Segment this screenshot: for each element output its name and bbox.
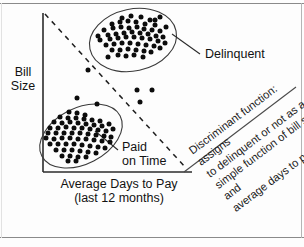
scatter-point	[158, 15, 163, 20]
scatter-point	[68, 154, 73, 159]
paid-on-time-label-line2: on Time	[122, 154, 166, 168]
scatter-point	[60, 121, 65, 126]
scatter-point	[111, 127, 116, 132]
scatter-point	[158, 46, 163, 51]
scatter-point	[136, 42, 141, 47]
scatter-point	[154, 34, 159, 39]
scatter-point	[134, 20, 139, 25]
y-axis-label-line1: Bill	[15, 65, 32, 79]
scatter-point	[58, 115, 63, 120]
scatter-point	[94, 133, 99, 138]
scatter-point	[103, 146, 108, 151]
scatter-point	[75, 111, 80, 116]
scatter-point	[141, 55, 146, 60]
scatter-point	[46, 131, 51, 136]
scatter-point	[119, 25, 124, 30]
scatter-point	[90, 118, 95, 123]
scatter-point	[135, 25, 140, 30]
scatter-point	[88, 144, 93, 149]
scatter-point	[67, 110, 72, 115]
scatter-point	[82, 117, 87, 122]
scatter-point	[148, 18, 153, 23]
scatter-point	[156, 39, 161, 44]
scatter-point	[150, 88, 155, 93]
scatter-point	[102, 134, 107, 139]
scatter-point	[135, 88, 140, 93]
scatter-point	[108, 37, 113, 42]
scatter-point	[129, 14, 134, 19]
scatter-point	[107, 122, 112, 127]
scatter-point	[96, 128, 101, 133]
scatter-point	[153, 23, 158, 28]
scatter-point	[60, 136, 65, 141]
scatter-point	[80, 143, 85, 148]
scatter-point	[138, 100, 143, 105]
scatter-point	[48, 142, 53, 147]
y-axis-label-line2: Size	[11, 79, 35, 93]
scatter-point	[76, 137, 81, 142]
scatter-point	[72, 126, 77, 131]
scatter-point	[92, 123, 97, 128]
x-axis-label-line1: Average Days to Pay	[60, 177, 177, 191]
scatter-point	[112, 42, 117, 47]
scatter-point	[124, 35, 129, 40]
scatter-point	[64, 142, 69, 147]
scatter-point	[110, 48, 115, 53]
scatter-point	[84, 122, 89, 127]
scatter-point	[52, 137, 57, 142]
scatter-point	[124, 54, 129, 59]
scatter-point	[52, 120, 57, 125]
scatter-point	[96, 34, 101, 39]
scatter-point	[86, 150, 91, 155]
scatter-point	[74, 159, 79, 164]
scatter-point	[56, 126, 61, 131]
scatter-point	[78, 131, 83, 136]
scatter-point	[94, 151, 99, 156]
scatter-point	[56, 142, 61, 147]
scatter-point	[111, 26, 116, 31]
delinquent-leader-line	[172, 34, 200, 54]
scatter-point	[74, 116, 79, 121]
scatter-point	[153, 18, 158, 23]
scatter-point	[158, 29, 163, 34]
scatter-point	[76, 121, 81, 126]
scatter-point	[70, 148, 75, 153]
scatter-point	[161, 35, 166, 40]
scatter-point	[102, 28, 107, 33]
scatter-point	[68, 120, 73, 125]
paid-on-time-label-line1: Paid	[122, 140, 147, 154]
y-axis-label: BillSize	[6, 65, 40, 93]
scatter-point	[78, 149, 83, 154]
scatter-point	[163, 41, 168, 46]
scatter-point	[118, 48, 123, 53]
scatter-point	[70, 131, 75, 136]
scatter-point	[80, 126, 85, 131]
scatter-point	[100, 139, 105, 144]
scatter-point	[54, 148, 59, 153]
scatter-point	[106, 55, 111, 60]
scatter-point	[138, 31, 143, 36]
scatter-point	[86, 132, 91, 137]
scatter-point	[66, 159, 71, 164]
scatter-point	[96, 145, 101, 150]
scatter-point	[126, 47, 131, 52]
scatter-point	[116, 53, 121, 58]
scatter-point	[127, 26, 132, 31]
scatter-point	[134, 48, 139, 53]
scatter-point	[62, 131, 67, 136]
scatter-point	[144, 43, 149, 48]
scatter-point	[142, 27, 147, 32]
scatter-point	[48, 126, 53, 131]
scatter-point	[139, 15, 144, 20]
x-axis-label-line2: (last 12 months)	[74, 191, 164, 205]
scatter-point	[116, 36, 121, 41]
scatter-point	[54, 131, 59, 136]
scatter-point	[142, 49, 147, 54]
scatter-point	[68, 136, 73, 141]
scatter-point	[88, 127, 93, 132]
scatter-point	[62, 148, 67, 153]
scatter-point	[60, 154, 65, 159]
scatter-point	[152, 44, 157, 49]
scatter-point	[108, 140, 113, 145]
delinquent-cluster-label: Delinquent	[205, 47, 265, 61]
